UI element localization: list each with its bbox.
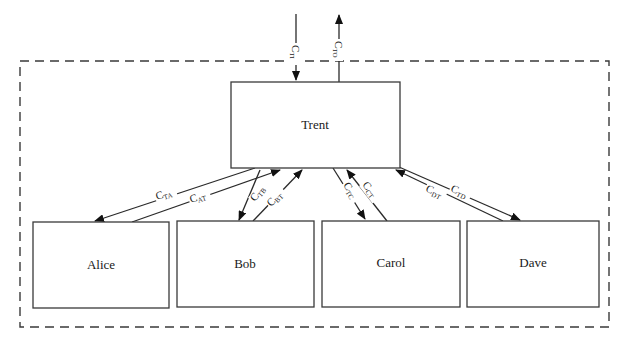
channel-diagram: Trent Alice Bob Carol Dave CTI CTO CTA C… xyxy=(0,0,625,343)
node-alice-label: Alice xyxy=(87,257,115,272)
node-dave-label: Dave xyxy=(519,255,547,270)
edge-c-dt-arrow xyxy=(396,170,503,221)
node-carol-label: Carol xyxy=(377,255,406,270)
node-dave: Dave xyxy=(467,221,599,307)
edge-c-to-label: CTO xyxy=(331,39,345,61)
edge-c-at-label: CAT xyxy=(187,187,212,207)
edge-c-ti-label: CTI xyxy=(288,43,302,65)
edge-c-td-label: CTD xyxy=(447,182,473,204)
node-alice: Alice xyxy=(33,222,169,308)
edge-c-ta-label: CTA xyxy=(153,184,178,204)
node-bob: Bob xyxy=(177,221,314,307)
edge-c-ct-label: CCT xyxy=(358,178,383,204)
node-trent-label: Trent xyxy=(301,117,329,132)
node-carol: Carol xyxy=(322,221,460,307)
node-bob-label: Bob xyxy=(234,256,256,271)
node-trent: Trent xyxy=(231,82,400,168)
